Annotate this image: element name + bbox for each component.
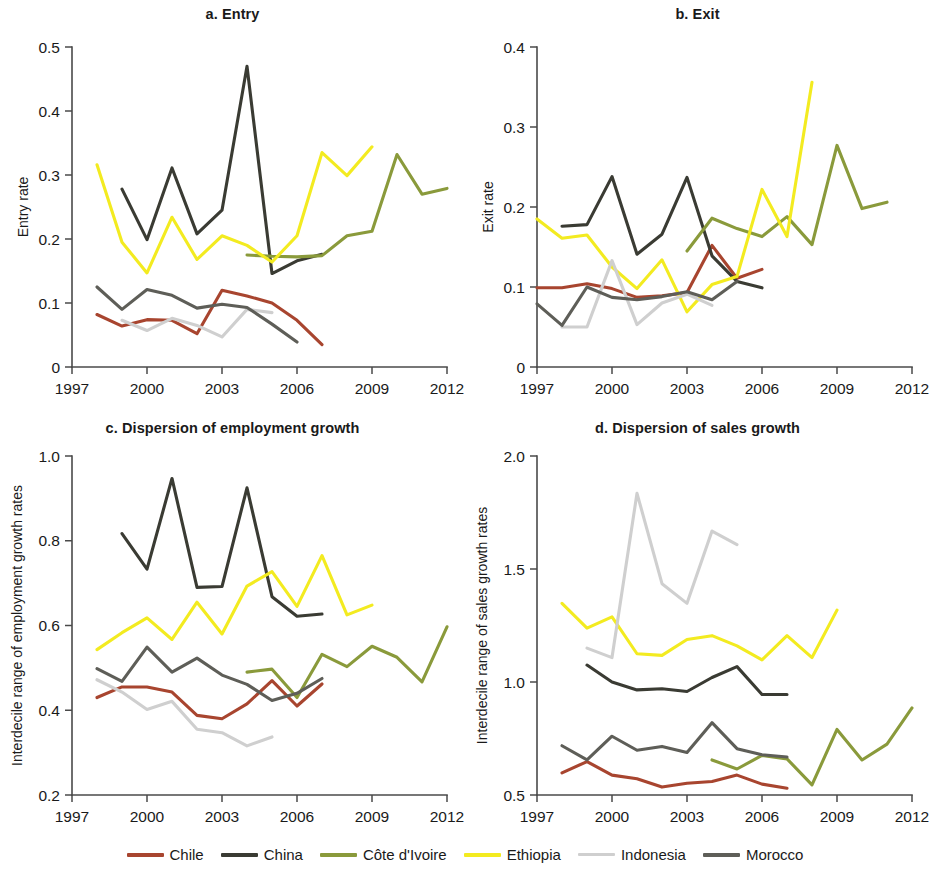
x-tick-label: 2003: [670, 380, 704, 397]
x-tick-label: 2009: [820, 380, 854, 397]
y-tick-label: 0.4: [38, 702, 60, 719]
x-tick-label: 1997: [55, 808, 89, 825]
series-line-c-te-d-ivoire: [712, 708, 912, 785]
legend-item[interactable]: Ethiopia: [464, 846, 561, 863]
x-tick-label: 2009: [820, 808, 854, 825]
x-tick-label: 2000: [595, 808, 630, 825]
x-tick-label: 1997: [55, 380, 89, 397]
panel-d-plot: 0.51.01.52.0199720002003200620092012Inte…: [465, 420, 930, 835]
x-tick-label: 2000: [130, 380, 165, 397]
chart-legend: ChileChinaCôte d'IvoireEthiopiaIndonesia…: [0, 846, 930, 863]
x-tick-label: 2009: [355, 808, 389, 825]
x-tick-label: 1997: [520, 808, 554, 825]
series-line-indonesia: [97, 680, 272, 746]
series-line-china: [587, 665, 787, 694]
y-tick-label: 0.3: [503, 119, 525, 136]
series-line-chile: [562, 762, 787, 789]
legend-item[interactable]: Chile: [127, 846, 204, 863]
legend-label: Chile: [170, 846, 204, 863]
y-tick-label: 0.3: [38, 167, 60, 184]
y-tick-label: 0.6: [38, 617, 60, 634]
series-line-ethiopia: [562, 603, 837, 660]
x-tick-label: 2012: [430, 380, 464, 397]
legend-swatch-icon: [703, 853, 740, 857]
y-tick-label: 0.8: [38, 532, 60, 549]
panel-c-plot: 0.20.40.60.81.0199720002003200620092012I…: [0, 420, 465, 835]
x-tick-label: 2003: [205, 808, 239, 825]
y-axis-title: Exit rate: [480, 181, 496, 233]
x-tick-label: 2000: [130, 808, 165, 825]
y-tick-label: 1.0: [503, 674, 525, 691]
legend-label: China: [264, 846, 303, 863]
legend-label: Morocco: [746, 846, 804, 863]
series-line-ethiopia: [97, 556, 372, 650]
legend-swatch-icon: [127, 853, 164, 857]
series-line-morocco: [562, 723, 787, 760]
x-tick-label: 2000: [595, 380, 630, 397]
legend-swatch-icon: [464, 853, 501, 857]
y-axis-title: Entry rate: [15, 176, 31, 237]
panel-b-exit: b. Exit 00.10.20.30.41997200020032006200…: [465, 6, 930, 406]
legend-item[interactable]: China: [221, 846, 303, 863]
legend-swatch-icon: [320, 853, 357, 857]
y-tick-label: 0.5: [38, 39, 60, 56]
y-axis-title: Interdecile range of employment growth r…: [9, 485, 25, 766]
x-tick-label: 2009: [355, 380, 389, 397]
series-line-c-te-d-ivoire: [247, 155, 447, 257]
y-tick-label: 0.2: [38, 231, 60, 248]
y-tick-label: 1.5: [503, 561, 525, 578]
legend-item[interactable]: Côte d'Ivoire: [320, 846, 447, 863]
y-tick-label: 0.2: [38, 787, 60, 804]
panel-b-plot: 00.10.20.30.4199720002003200620092012Exi…: [465, 6, 930, 406]
x-tick-label: 2012: [895, 808, 929, 825]
y-tick-label: 0.2: [503, 199, 525, 216]
x-tick-label: 2006: [280, 808, 314, 825]
series-line-ethiopia: [537, 82, 812, 312]
x-tick-label: 1997: [520, 380, 554, 397]
y-tick-label: 0: [51, 359, 60, 376]
x-tick-label: 2003: [205, 380, 239, 397]
y-tick-label: 0.1: [38, 295, 60, 312]
x-tick-label: 2012: [430, 808, 464, 825]
x-tick-label: 2006: [280, 380, 314, 397]
legend-item[interactable]: Indonesia: [578, 846, 686, 863]
series-line-indonesia: [587, 493, 737, 657]
x-tick-label: 2006: [745, 808, 779, 825]
y-tick-label: 2.0: [503, 448, 525, 465]
legend-label: Côte d'Ivoire: [363, 846, 447, 863]
series-line-china: [122, 478, 322, 616]
panel-c-dispersion-employment: c. Dispersion of employment growth 0.20.…: [0, 420, 465, 835]
legend-label: Ethiopia: [507, 846, 561, 863]
panel-d-dispersion-sales: d. Dispersion of sales growth 0.51.01.52…: [465, 420, 930, 835]
legend-swatch-icon: [578, 853, 615, 856]
panel-a-entry: a. Entry 00.10.20.30.40.5199720002003200…: [0, 6, 465, 406]
legend-label: Indonesia: [621, 846, 686, 863]
panel-a-plot: 00.10.20.30.40.5199720002003200620092012…: [0, 6, 465, 406]
series-line-morocco: [97, 647, 322, 700]
y-tick-label: 0: [516, 359, 525, 376]
y-tick-label: 1.0: [38, 448, 60, 465]
x-tick-label: 2006: [745, 380, 779, 397]
y-tick-label: 0.1: [503, 279, 525, 296]
y-axis-title: Interdecile range of sales growth rates: [474, 507, 490, 744]
legend-item[interactable]: Morocco: [703, 846, 804, 863]
figure-container: a. Entry 00.10.20.30.40.5199720002003200…: [0, 0, 930, 873]
y-tick-label: 0.4: [38, 103, 60, 120]
series-line-ethiopia: [97, 147, 372, 273]
legend-swatch-icon: [221, 853, 258, 857]
y-tick-label: 0.4: [503, 39, 525, 56]
x-tick-label: 2012: [895, 380, 929, 397]
y-tick-label: 0.5: [503, 787, 525, 804]
x-tick-label: 2003: [670, 808, 704, 825]
